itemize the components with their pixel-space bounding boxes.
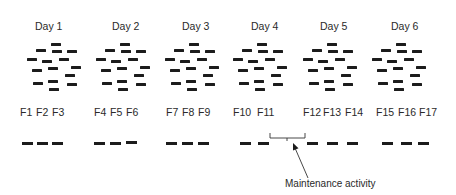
cluster-dash (118, 88, 128, 91)
cluster-dash (347, 66, 357, 69)
cluster-dash (258, 50, 268, 53)
cluster-dash (51, 43, 61, 46)
fraction-dash (418, 142, 429, 145)
cluster-dash (174, 49, 184, 52)
fraction-dash (37, 142, 48, 145)
cluster-dash (372, 58, 382, 61)
fraction-dash (258, 142, 269, 145)
cluster-dash (377, 69, 387, 72)
fraction-dash (401, 142, 412, 145)
cluster-dash (209, 66, 219, 69)
arrow-head-icon (293, 143, 299, 151)
fraction-label: F17 (419, 106, 437, 118)
cluster-dash (416, 66, 426, 69)
cluster-dash (396, 43, 406, 46)
cluster-dash (180, 60, 190, 63)
cluster-dash (318, 60, 328, 63)
cluster-dash (412, 83, 422, 86)
cluster-dash (67, 83, 77, 86)
day-label: Day 4 (251, 20, 278, 32)
cluster-dash (271, 74, 281, 77)
cluster-dash (187, 88, 197, 91)
cluster-dash (197, 58, 207, 61)
fraction-label: F8 (182, 106, 194, 118)
cluster-dash (328, 50, 338, 53)
cluster-dash (335, 58, 345, 61)
fraction-label: F9 (198, 106, 210, 118)
cluster-dash (186, 67, 196, 70)
fraction-dash (110, 142, 121, 145)
cluster-dash (186, 80, 196, 83)
cluster-dash (205, 50, 215, 53)
cluster-dash (254, 80, 264, 83)
fraction-label: F15 (376, 106, 394, 118)
fraction-label: F4 (94, 106, 106, 118)
fraction-label: F1 (20, 106, 32, 118)
cluster-dash (343, 83, 353, 86)
fraction-label: F14 (345, 106, 363, 118)
cluster-dash (120, 43, 130, 46)
fraction-dash (22, 142, 33, 145)
fraction-dash (52, 142, 63, 145)
cluster-dash (102, 82, 112, 85)
cluster-dash (165, 58, 175, 61)
cluster-dash (189, 43, 199, 46)
fraction-label: F10 (233, 106, 251, 118)
cluster-dash (171, 82, 181, 85)
cluster-dash (378, 82, 388, 85)
cluster-dash (343, 50, 353, 53)
cluster-dash (387, 60, 397, 63)
cluster-dash (136, 50, 146, 53)
day-label: Day 5 (320, 20, 347, 32)
cluster-dash (105, 49, 115, 52)
cluster-dash (136, 83, 146, 86)
fraction-label: F6 (126, 106, 138, 118)
cluster-dash (341, 74, 351, 77)
cluster-dash (117, 80, 127, 83)
cluster-dash (190, 50, 200, 53)
cluster-dash (412, 50, 422, 53)
fraction-dash (307, 142, 318, 145)
bracket-shape (270, 133, 305, 141)
fraction-label: F5 (110, 106, 122, 118)
cluster-dash (410, 74, 420, 77)
fraction-dash (94, 142, 105, 145)
cluster-dash (33, 82, 43, 85)
fraction-dash (166, 142, 177, 145)
cluster-dash (324, 67, 334, 70)
cluster-dash (65, 74, 75, 77)
day-label: Day 6 (391, 20, 418, 32)
cluster-dash (242, 49, 252, 52)
cluster-dash (393, 67, 403, 70)
cluster-dash (59, 58, 69, 61)
cluster-dash (273, 83, 283, 86)
day-label: Day 1 (35, 20, 62, 32)
cluster-dash (71, 66, 81, 69)
fraction-label: F13 (323, 106, 341, 118)
cluster-dash (42, 60, 52, 63)
cluster-dash (248, 60, 258, 63)
cluster-dash (117, 67, 127, 70)
cluster-dash (277, 66, 287, 69)
fraction-label: F16 (398, 106, 416, 118)
cluster-dash (255, 88, 265, 91)
cluster-dash (233, 58, 243, 61)
cluster-dash (239, 82, 249, 85)
cluster-dash (393, 80, 403, 83)
cluster-dash (36, 49, 46, 52)
cluster-dash (205, 83, 215, 86)
fraction-dash (198, 142, 209, 145)
fraction-label: F11 (257, 106, 274, 118)
cluster-dash (397, 50, 407, 53)
cluster-dash (309, 82, 319, 85)
fraction-label: F7 (166, 106, 178, 118)
cluster-dash (49, 88, 59, 91)
cluster-dash (111, 60, 121, 63)
fraction-label: F2 (36, 106, 48, 118)
cluster-dash (273, 50, 283, 53)
cluster-dash (312, 49, 322, 52)
cluster-dash (257, 43, 267, 46)
fraction-dash (382, 142, 393, 145)
cluster-dash (324, 80, 334, 83)
maintenance-annotation (0, 0, 456, 195)
